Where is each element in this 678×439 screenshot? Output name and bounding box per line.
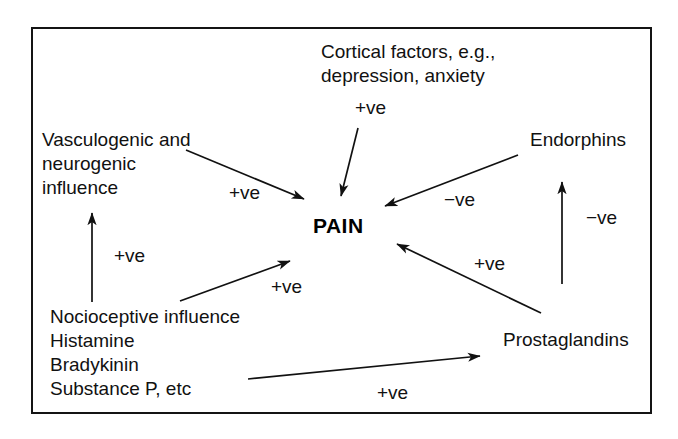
node-endorphins: Endorphins <box>530 128 626 152</box>
sign-nociceptive-to-prostaglandins: +ve <box>377 383 408 403</box>
sign-endorphins-to-pain: −ve <box>444 190 475 210</box>
node-vasculogenic-neurogenic: Vasculogenic and neurogenic influence <box>42 128 191 200</box>
node-prostaglandins: Prostaglandins <box>503 328 629 352</box>
sign-nociceptive-to-pain: +ve <box>271 277 302 297</box>
node-pain-center: PAIN <box>313 214 364 238</box>
pain-mechanism-diagram: Cortical factors, e.g., depression, anxi… <box>0 0 678 439</box>
sign-cortical-to-pain: +ve <box>355 98 386 118</box>
sign-prostaglandins-to-pain: +ve <box>474 254 505 274</box>
sign-vasculogenic-to-pain: +ve <box>229 183 260 203</box>
node-cortical-factors: Cortical factors, e.g., depression, anxi… <box>321 40 495 88</box>
sign-prostaglandins-to-endorphins: −ve <box>586 208 617 228</box>
sign-nociceptive-to-vasculogenic: +ve <box>114 246 145 266</box>
node-nociceptive-mediators: Nocioceptive influence Histamine Bradyki… <box>50 305 240 401</box>
